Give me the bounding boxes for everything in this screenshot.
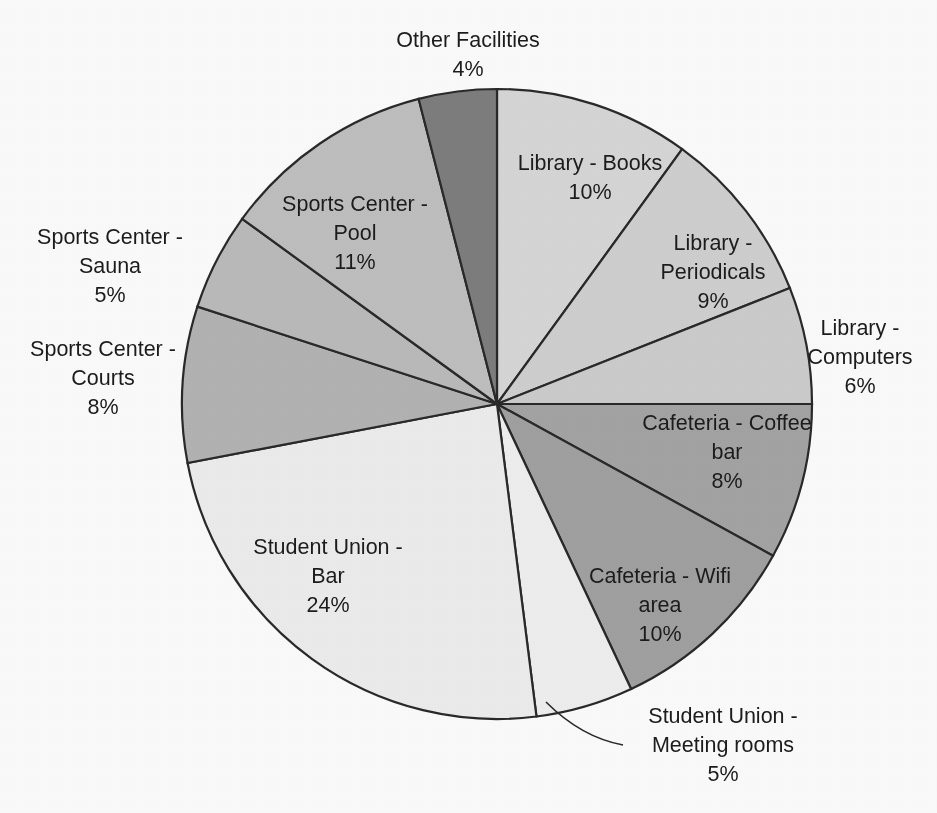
pie-chart-figure: Library - Books10%Library - Periodicals9… <box>0 0 937 813</box>
pie-chart-canvas <box>0 0 937 813</box>
pie-slices-group <box>182 89 812 719</box>
